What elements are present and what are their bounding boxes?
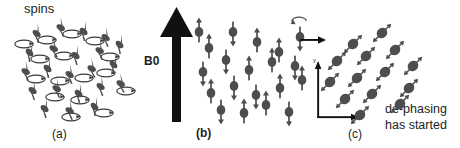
figure-canvas bbox=[0, 0, 460, 148]
panel-b-spins bbox=[195, 18, 307, 127]
panel-c-spins bbox=[317, 20, 425, 127]
panel-b-group bbox=[160, 7, 306, 126]
panel-c-group bbox=[300, 20, 426, 127]
panel-a-group bbox=[15, 17, 136, 121]
spin-dephasing-figure: spins B0 (a) (b) (c) de-phasing has star… bbox=[0, 0, 460, 148]
precession-curved-arrow-icon bbox=[291, 17, 306, 24]
b0-field-arrow bbox=[160, 7, 193, 122]
